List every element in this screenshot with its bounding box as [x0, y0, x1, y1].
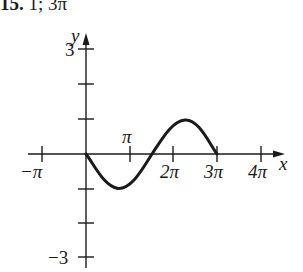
y-axis-arrow-icon	[83, 33, 90, 45]
x-axis-label: x	[278, 153, 288, 174]
y-tick-label-neg3: −3	[48, 247, 68, 268]
graph: y 3 −3 π −π 2π 3π 4π x	[0, 0, 303, 272]
x-tick-label-4pi: 4π	[248, 161, 268, 182]
x-tick-label-neg-pi: −π	[20, 161, 43, 182]
x-tick-label-2pi: 2π	[160, 161, 180, 182]
x-tick-label-3pi: 3π	[203, 161, 224, 182]
y-tick-label-3: 3	[65, 39, 75, 60]
x-tick-label-pi: π	[122, 126, 132, 147]
